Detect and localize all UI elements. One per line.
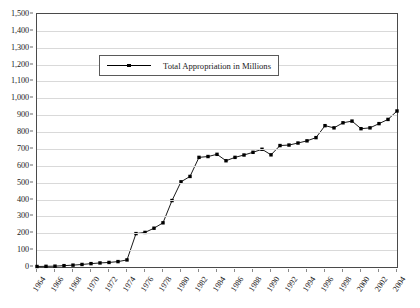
data-point-marker [215,153,218,156]
x-axis-tick-mark [144,269,145,272]
y-axis-tick-mark [30,181,33,182]
x-axis-tick-label: 1992 [283,275,299,293]
y-axis-tick-label: 1,300 [11,42,29,51]
x-axis-tick-label: 1998 [337,275,353,293]
x-axis-tick-label: 2002 [373,275,389,293]
x-axis-tick-mark [72,269,73,272]
gridline [37,98,397,99]
x-axis-tick-mark [234,269,235,272]
y-axis-tick-label: 600 [17,160,29,169]
gridline [37,132,397,133]
x-axis-tick-label: 1966 [49,275,65,293]
y-axis-tick-label: 1,200 [11,59,29,68]
y-axis-tick-label: 700 [17,143,29,152]
data-point-marker [242,153,245,156]
y-axis-tick-label: 1,400 [11,25,29,34]
gridline [37,233,397,234]
y-axis-tick-mark [30,147,33,148]
x-axis-tick-label: 1984 [211,275,227,293]
gridline [37,250,397,251]
data-point-marker [278,144,281,147]
x-axis-tick-label: 1994 [301,275,317,293]
x-axis-tick-label: 2000 [355,275,371,293]
y-axis-tick-label: 0 [25,262,29,271]
y-axis-tick-mark [30,46,33,47]
x-axis-tick-mark [180,269,181,272]
data-point-marker [233,156,236,159]
gridline [37,183,397,184]
data-point-marker [197,156,200,159]
x-axis-tick-label: 1968 [67,275,83,293]
appropriation-line-chart: 01002003004005006007008009001,0001,1001,… [0,0,420,308]
x-axis-tick-mark [90,269,91,272]
x-axis-tick-label: 1982 [193,275,209,293]
data-point-marker [53,264,56,267]
x-axis-tick-mark [396,269,397,272]
data-point-marker [98,261,101,264]
gridline [37,48,397,49]
data-point-marker [395,109,398,112]
data-point-marker [350,119,353,122]
data-point-marker [251,151,254,154]
y-axis-tick-mark [30,131,33,132]
series-layer [37,14,397,267]
x-axis-tick-mark [306,269,307,272]
y-axis-tick-mark [30,97,33,98]
y-axis: 01002003004005006007008009001,0001,1001,… [0,13,33,268]
series-line [37,111,397,267]
y-axis-tick-label: 1,100 [11,76,29,85]
x-axis-tick-mark [162,269,163,272]
data-point-marker [152,227,155,230]
data-point-marker [80,263,83,266]
x-axis-tick-mark [54,269,55,272]
data-point-marker [377,122,380,125]
x-axis-tick-mark [108,269,109,272]
data-point-marker [368,126,371,129]
y-axis-tick-label: 800 [17,127,29,136]
x-axis-tick-mark [252,269,253,272]
data-point-marker [161,221,164,224]
x-axis-tick-mark [360,269,361,272]
y-axis-tick-mark [30,266,33,267]
data-point-marker [206,155,209,158]
x-axis-tick-mark [342,269,343,272]
data-point-marker [224,159,227,162]
data-point-marker [71,263,74,266]
x-axis-tick-mark [288,269,289,272]
y-axis-tick-mark [30,63,33,64]
y-axis-tick-mark [30,198,33,199]
data-point-marker [287,143,290,146]
y-axis-tick-label: 100 [17,245,29,254]
y-axis-tick-mark [30,29,33,30]
x-axis-tick-label: 2004 [391,275,407,293]
x-axis: 1964196619681970197219741976197819801982… [36,269,398,308]
y-axis-tick-mark [30,114,33,115]
data-point-marker [332,126,335,129]
data-point-marker [323,124,326,127]
gridline [37,149,397,150]
x-axis-tick-label: 1972 [103,275,119,293]
y-axis-tick-label: 300 [17,211,29,220]
x-axis-tick-mark [126,269,127,272]
chart-legend: Total Appropriation in Millions [99,55,279,76]
data-point-marker [89,262,92,265]
x-axis-tick-label: 1988 [247,275,263,293]
data-point-marker [314,136,317,139]
x-axis-tick-label: 1990 [265,275,281,293]
data-point-marker [359,127,362,130]
data-point-marker [305,139,308,142]
x-axis-tick-label: 1964 [31,275,47,293]
y-axis-tick-label: 500 [17,177,29,186]
data-point-marker [62,264,65,267]
x-axis-tick-label: 1974 [121,275,137,293]
y-axis-tick-label: 1,000 [11,93,29,102]
y-axis-tick-label: 900 [17,110,29,119]
legend-line-marker-icon [107,61,151,70]
data-point-marker [107,261,110,264]
y-axis-tick-mark [30,164,33,165]
data-point-marker [296,141,299,144]
y-axis-tick-mark [30,215,33,216]
x-axis-tick-label: 1980 [175,275,191,293]
plot-area [36,13,398,268]
x-axis-tick-mark [36,269,37,272]
